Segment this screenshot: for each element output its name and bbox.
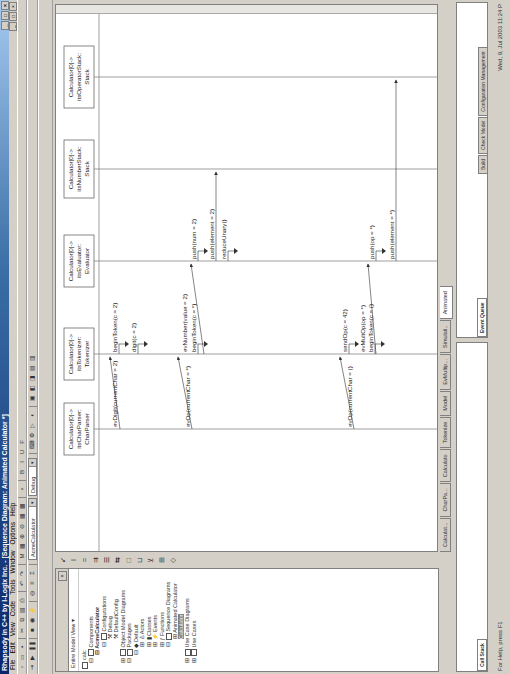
animate-icon[interactable]: ◐ [29, 411, 36, 419]
tab-calculator[interactable]: Calculat... [440, 518, 451, 552]
message-evdigit[interactable]: evDigit(currentChar = 2) [110, 357, 120, 429]
tab-simulation[interactable]: Simulati.. [440, 320, 451, 353]
layout-4-icon[interactable]: ▤ [29, 364, 36, 372]
mdi-minimize-button[interactable]: _ [9, 22, 17, 31]
cut-icon[interactable]: ✂ [19, 626, 26, 634]
system-border-tool-icon[interactable]: = [81, 558, 89, 562]
delete-icon[interactable]: × [19, 485, 26, 493]
open-icon[interactable]: ▭ [19, 653, 26, 661]
reply-tool-icon[interactable]: ☰ [103, 557, 111, 563]
menu-options[interactable]: Options [9, 522, 17, 544]
layout-3-icon[interactable]: ◨ [29, 374, 36, 382]
browser-view-selector[interactable]: Entire Model View ▾ [68, 569, 79, 671]
save-icon[interactable]: ▪ [19, 643, 26, 651]
minimize-button[interactable]: _ [1, 21, 9, 30]
close-button[interactable]: × [1, 1, 9, 10]
message-push-element-2[interactable]: push(element = 2) [208, 172, 216, 261]
tab-animated[interactable]: Animated [440, 286, 453, 319]
lifeline-number-stack[interactable]: Calculator[0]-> itsNumberStack: Stack [64, 140, 438, 198]
watch-icon[interactable]: ◎ [29, 589, 36, 597]
menu-window[interactable]: Window [9, 550, 17, 573]
message-digit[interactable]: digit(c = 2) [130, 323, 148, 354]
copy-icon[interactable]: ⧉ [19, 616, 26, 624]
chevron-down-icon[interactable]: ▾ [29, 459, 36, 467]
redo-icon[interactable]: ↷ [19, 569, 26, 577]
browser-icon[interactable]: ▦ [19, 542, 26, 550]
message-tool-icon[interactable]: ⇉ [92, 557, 100, 563]
tab-tokenizer[interactable]: Tokenize [440, 417, 451, 449]
font-icon[interactable]: F [19, 438, 26, 446]
tree-item[interactable]: ⊞ Use Cases [191, 582, 198, 669]
component-combo[interactable]: AcmeCalculator ▾ [28, 498, 37, 560]
message-begintoken-paren[interactable]: beginToken(c = () [367, 304, 385, 354]
menu-tools[interactable]: Tools [9, 580, 17, 595]
lifeline-tokenizer[interactable]: Calculator[0]-> itsTokenizer: Tokenizer [64, 328, 438, 380]
lifeline-operator-stack[interactable]: Calculator[0]-> itsOperatorStack: Stack [64, 46, 438, 108]
configuration-combo[interactable]: Debug ▾ [28, 458, 37, 496]
layout-2-icon[interactable]: ◧ [29, 384, 36, 392]
message-reduceunary[interactable]: reduceUnary() [220, 219, 238, 261]
maximize-button[interactable]: □ [1, 11, 9, 20]
tab-configuration-management[interactable]: Configuration Management [478, 47, 488, 115]
tab-call-stack[interactable]: Call Stack [477, 639, 487, 671]
message-push-num[interactable]: push(num = 2) [190, 219, 208, 261]
lifeline-charparser[interactable]: Calculator[0]-> itsCharParser: CharParse… [64, 403, 438, 455]
message-evop-star[interactable]: evOp(currentChar = *) [178, 357, 192, 429]
layout-5-icon[interactable]: ▥ [29, 354, 36, 362]
partition-line-tool-icon[interactable]: ◇ [169, 558, 177, 563]
zoom-out-icon[interactable]: ⊖ [19, 522, 26, 530]
tab-build[interactable]: Build [478, 155, 488, 174]
build-icon[interactable]: ⚙ [29, 431, 36, 439]
message-push-op[interactable]: push(op = *) [368, 225, 386, 261]
stop-icon[interactable]: ■ [29, 626, 36, 634]
thread-icon[interactable]: ≡ [29, 579, 36, 587]
mdi-restore-button[interactable]: □ [9, 12, 17, 21]
select-tool-icon[interactable]: ↙ [59, 557, 67, 563]
tab-calculator-2[interactable]: Calculato [440, 449, 451, 482]
tab-check-model[interactable]: Check Model [478, 117, 488, 154]
destroy-tool-icon[interactable]: □ [125, 558, 133, 562]
menu-view[interactable]: View [9, 622, 17, 636]
message-evop-paren[interactable]: evOp(currentChar = () [340, 357, 354, 429]
message-push-element-star[interactable]: push(element = *) [388, 80, 396, 261]
new-icon[interactable]: ▫ [19, 663, 26, 671]
generate-code-icon[interactable]: ⌨ [29, 441, 36, 449]
lifeline-evaluator[interactable]: Calculator[0]-> itsEvaluator: Evaluator [64, 235, 438, 287]
undo-icon[interactable]: ↶ [19, 579, 26, 587]
breakpoint-icon[interactable]: ◉ [29, 616, 36, 624]
italic-icon[interactable]: I [19, 458, 26, 466]
grid-icon[interactable]: ▦ [19, 512, 26, 520]
trace-icon[interactable]: Σ [29, 569, 36, 577]
browser-close-button[interactable]: × [58, 571, 67, 581]
tab-evmultop[interactable]: EvMultip... [440, 354, 451, 390]
layout-1-icon[interactable]: ▣ [29, 394, 36, 402]
mdi-close-button[interactable]: × [9, 2, 17, 11]
find-icon[interactable]: M [19, 552, 26, 560]
message-sendop[interactable]: sendOp(c = 42) [341, 309, 359, 354]
chevron-down-icon[interactable]: ▾ [29, 499, 36, 507]
diagram-vertical-scrollbar[interactable] [56, 5, 437, 14]
zoom-in-icon[interactable]: ⊕ [19, 532, 26, 540]
create-arrow-tool-icon[interactable]: ⇆ [114, 557, 122, 563]
instance-line-tool-icon[interactable]: I [70, 559, 78, 561]
condition-tool-icon[interactable]: ⊻ [147, 558, 155, 563]
message-begintoken-star[interactable]: beginToken(c = *) [190, 304, 208, 354]
tab-model[interactable]: Model [440, 391, 451, 416]
interaction-occurrence-tool-icon[interactable]: ⊞ [158, 557, 166, 563]
sequence-diagram-canvas[interactable]: Calculator[0]-> itsCharParser: CharParse… [55, 4, 438, 552]
event-generator-icon[interactable]: ⚡ [29, 606, 36, 614]
go-step-icon[interactable]: ⇥ [29, 663, 36, 671]
tab-charparser[interactable]: CharPa... [440, 483, 451, 516]
go-icon[interactable]: ▶ [29, 653, 36, 661]
message-begintoken-2[interactable]: beginToken(c = 2) [111, 303, 129, 354]
underline-icon[interactable]: U [19, 448, 26, 456]
print-icon[interactable]: ⎙ [19, 596, 26, 604]
pause-icon[interactable]: ❚❚ [29, 643, 36, 651]
bold-icon[interactable]: B [19, 468, 26, 476]
tab-event-queue[interactable]: Event Queue [477, 298, 487, 337]
diagram-icon[interactable]: ▩ [19, 502, 26, 510]
menu-file[interactable]: File [9, 660, 17, 670]
menu-code[interactable]: Code [9, 601, 17, 617]
timeout-tool-icon[interactable]: ⊔ [136, 558, 144, 563]
menu-edit[interactable]: Edit [9, 642, 17, 653]
